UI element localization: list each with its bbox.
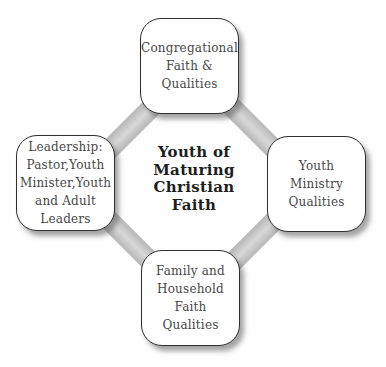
center-title: Youth of Maturing Christian Faith	[118, 144, 270, 214]
diagram-canvas: Congregational Faith & Qualities Leaders…	[0, 0, 386, 367]
node-youth-ministry: Youth Ministry Qualities	[267, 136, 366, 232]
node-text-line: Household	[156, 280, 225, 298]
node-text-line: Pastor,Youth	[20, 156, 111, 174]
center-title-line: Youth of	[118, 144, 270, 162]
node-leadership-text: Leadership: Pastor,Youth Minister,Youth …	[20, 138, 111, 228]
node-leadership: Leadership: Pastor,Youth Minister,Youth …	[16, 135, 115, 231]
node-text-line: Qualities	[288, 193, 344, 211]
node-congregational-faith: Congregational Faith & Qualities	[140, 18, 239, 114]
node-text-line: Leaders	[20, 210, 111, 228]
node-text-line: Faith &	[141, 57, 238, 75]
node-text-line: Qualities	[156, 316, 225, 334]
center-title-line: Faith	[118, 197, 270, 215]
node-youth-ministry-text: Youth Ministry Qualities	[288, 157, 344, 211]
node-congregational-faith-text: Congregational Faith & Qualities	[141, 39, 238, 93]
node-text-line: Qualities	[141, 75, 238, 93]
node-text-line: Minister,Youth	[20, 174, 111, 192]
node-text-line: Leadership:	[20, 138, 111, 156]
node-text-line: Family and	[156, 262, 225, 280]
node-text-line: Faith	[156, 298, 225, 316]
node-text-line: Congregational	[141, 39, 238, 57]
node-family-household-text: Family and Household Faith Qualities	[156, 262, 225, 334]
node-text-line: Ministry	[288, 175, 344, 193]
center-title-line: Maturing	[118, 162, 270, 180]
center-title-line: Christian	[118, 179, 270, 197]
node-family-household: Family and Household Faith Qualities	[141, 250, 240, 346]
node-text-line: and Adult	[20, 192, 111, 210]
node-text-line: Youth	[288, 157, 344, 175]
